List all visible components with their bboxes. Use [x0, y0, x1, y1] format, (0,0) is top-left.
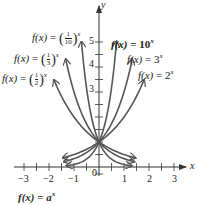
x-tick-label: 1 [122, 174, 127, 184]
label-ten-pow-x: f(x) = 10x [111, 38, 154, 50]
label-three-pow-x: f(x) = 3x [127, 53, 163, 65]
label-two-pow-x: f(x) = 2x [138, 69, 174, 81]
y-tick-label: 5 [89, 36, 94, 46]
y-axis-label: y [101, 0, 105, 10]
caption-general-form: f(x) = ax [18, 190, 55, 203]
curve-f-x-1-3-x [66, 59, 134, 161]
label-one-third-pow-x: f(x) = (13)x [14, 52, 59, 67]
x-tick-label: 3 [172, 174, 177, 184]
label-one-tenth-pow-x: f(x) = (110)x [32, 31, 80, 46]
x-tick-label: −3 [18, 174, 29, 184]
exponential-graph [0, 0, 201, 205]
x-axis-label: x [190, 161, 194, 171]
y-tick-label: 3 [89, 84, 94, 94]
x-tick-label: 2 [147, 174, 152, 184]
y-tick-label: 4 [89, 59, 94, 69]
label-one-half-pow-x: f(x) = (12)x [2, 72, 47, 87]
origin-label: 0 [92, 168, 97, 178]
x-tick-label: −1 [68, 174, 79, 184]
curve-f-x-3-x [64, 59, 132, 161]
x-tick-label: −2 [43, 174, 54, 184]
